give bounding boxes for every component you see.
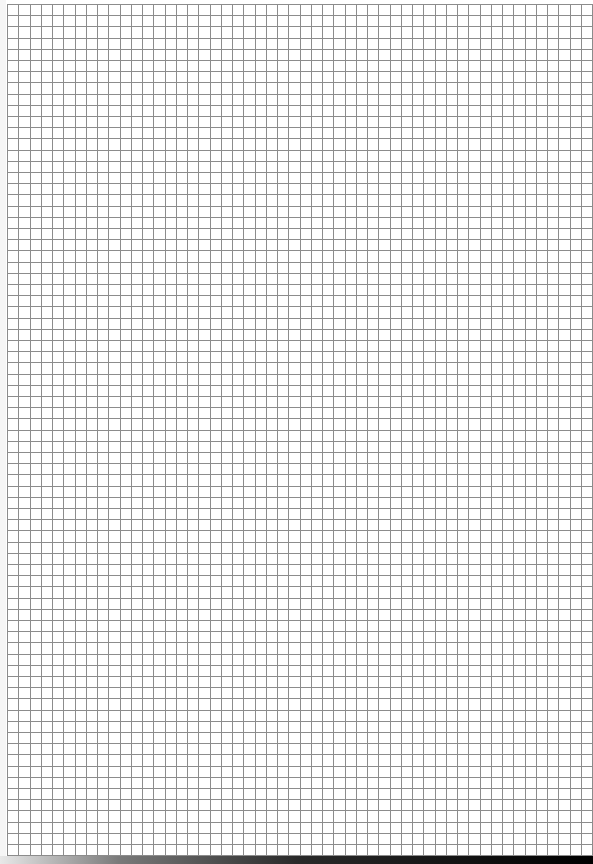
grid-lines [0, 0, 593, 856]
graph-paper-sheet [0, 0, 593, 856]
bottom-shadow-bar [0, 856, 593, 864]
